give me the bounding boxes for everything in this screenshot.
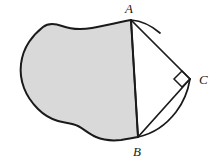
- vertex-label-a: A: [124, 1, 133, 16]
- right-angle-marker-c: [174, 71, 190, 87]
- side-ac: [131, 20, 190, 79]
- figure-canvas: A B C: [0, 0, 210, 163]
- geometry-figure: A B C: [0, 0, 210, 163]
- vertex-label-c: C: [199, 72, 208, 87]
- vertex-label-b: B: [133, 144, 141, 159]
- arc-ac: [131, 20, 160, 33]
- blob-region: [21, 20, 138, 140]
